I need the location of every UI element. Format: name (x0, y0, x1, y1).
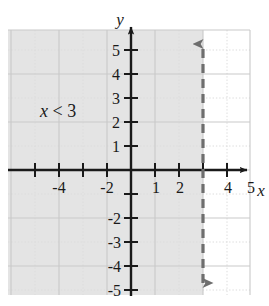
inequality-graph-figure: -4 -2 1 2 4 5 5 4 3 2 1 -2 -3 -4 -5 y x … (0, 0, 269, 306)
x-tick-label-5: 5 (247, 179, 255, 196)
y-axis-label: y (114, 10, 124, 29)
y-tick-label-neg5: -5 (108, 282, 121, 299)
x-axis-label: x (256, 181, 265, 200)
y-tick-label-3: 3 (112, 90, 120, 107)
y-tick-label-neg4: -4 (108, 258, 121, 275)
x-tick-label-2: 2 (176, 179, 184, 196)
region-label-variable: x (39, 101, 48, 121)
x-tick-label-1: 1 (152, 179, 160, 196)
y-tick-label-neg3: -3 (108, 234, 121, 251)
x-tick-label-neg2: -2 (100, 179, 113, 196)
region-label-relation: < 3 (48, 101, 76, 121)
x-tick-label-4: 4 (224, 179, 232, 196)
solution-region-shading (8, 30, 203, 295)
y-tick-label-neg2: -2 (108, 210, 121, 227)
coordinate-plane: -4 -2 1 2 4 5 5 4 3 2 1 -2 -3 -4 -5 y x … (0, 0, 269, 306)
y-tick-label-5: 5 (112, 42, 120, 59)
y-tick-label-1: 1 (112, 138, 120, 155)
y-tick-label-2: 2 (112, 114, 120, 131)
x-tick-label-neg4: -4 (52, 179, 65, 196)
y-tick-label-4: 4 (112, 66, 120, 83)
region-label-inequality: x < 3 (39, 101, 76, 121)
